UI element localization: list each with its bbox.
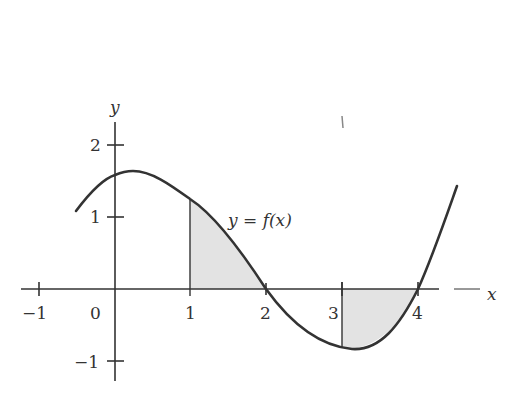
y-tick-label: 1 [90,207,101,227]
y-axis [107,122,124,381]
scan-artifact [342,116,343,128]
x-tick-label: 4 [412,303,423,323]
function-graph: y x −1 0 1 2 3 4 2 1 −1 y = f(x) [0,0,511,401]
x-tick-label: 2 [260,303,271,323]
x-tick-label: −1 [22,303,47,323]
x-axis-label: x [487,284,497,304]
y-axis-label: y [109,97,120,117]
function-label: y = f(x) [227,210,292,230]
x-tick-label: 3 [328,303,339,323]
x-tick-label: 0 [90,303,101,323]
x-tick-label: 1 [185,303,196,323]
y-tick-label: 2 [90,135,101,155]
y-tick-label: −1 [74,352,99,372]
